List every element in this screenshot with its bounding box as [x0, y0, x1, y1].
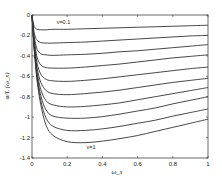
y-axis-label: φ/L (ω_s): [3, 72, 11, 100]
series-line: [32, 15, 208, 143]
x-axis-label: ω_s: [111, 168, 122, 176]
x-tick-label: 1: [206, 161, 210, 167]
line-chart: 00.20.40.60.81 0-0.2-0.4-0.6-0.8-1-1.2-1…: [0, 0, 222, 181]
x-tick-label: 0.8: [169, 161, 178, 167]
y-tick-label: -0.6: [20, 73, 31, 79]
y-tick-label: 0: [27, 12, 31, 18]
x-tick-label: 0.2: [63, 161, 72, 167]
series-line: [32, 15, 208, 131]
x-tick-label: 0: [30, 161, 34, 167]
series-line: [32, 15, 208, 107]
curve-annotation: ν=0.1: [57, 19, 71, 25]
x-axis-ticks: 00.20.40.60.81: [30, 15, 210, 167]
y-tick-label: -1: [25, 114, 31, 120]
series-curves: [32, 15, 208, 143]
y-tick-label: -1.2: [20, 135, 31, 141]
y-tick-label: -0.4: [20, 53, 31, 59]
curve-annotation: ν=1: [87, 144, 96, 150]
y-tick-label: -0.2: [20, 32, 31, 38]
y-axis-ticks: 0-0.2-0.4-0.6-0.8-1-1.2-1.4: [20, 12, 208, 161]
x-tick-label: 0.6: [133, 161, 142, 167]
y-tick-label: -0.8: [20, 94, 31, 100]
x-tick-label: 0.4: [98, 161, 107, 167]
y-tick-label: -1.4: [20, 155, 31, 161]
